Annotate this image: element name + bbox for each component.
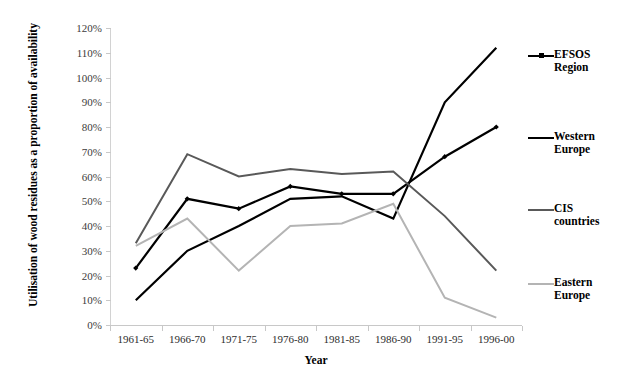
legend-diamond-marker-icon	[539, 53, 544, 58]
legend-entry-eastern-europe[interactable]: Eastern Europe	[528, 276, 640, 302]
legend-line	[528, 283, 554, 285]
series-line	[136, 154, 497, 270]
line-chart: Utilisation of wood residues as a propor…	[0, 0, 643, 382]
legend-entry-efsos-region[interactable]: EFSOS Region	[528, 48, 640, 74]
x-axis-title: Year	[110, 354, 522, 366]
series-cis-countries	[136, 154, 497, 270]
legend-line-swatch-icon	[528, 203, 554, 216]
legend-label: CIS countries	[554, 202, 599, 228]
legend-entry-western-europe[interactable]: Western Europe	[528, 130, 640, 156]
series-western-europe	[136, 48, 497, 300]
series-eastern-europe	[136, 204, 497, 318]
legend-label: EFSOS Region	[554, 48, 590, 74]
legend-line-swatch-icon	[528, 49, 554, 62]
legend-entry-cis-countries[interactable]: CIS countries	[528, 202, 640, 228]
legend-line	[528, 137, 554, 139]
series-line	[136, 48, 497, 300]
legend-line	[528, 209, 554, 211]
legend-line-swatch-icon	[528, 131, 554, 144]
legend-line-swatch-icon	[528, 277, 554, 290]
legend-label: Eastern Europe	[554, 276, 592, 302]
legend-label: Western Europe	[554, 130, 595, 156]
series-line	[136, 204, 497, 318]
chart-legend: EFSOS RegionWestern EuropeCIS countriesE…	[528, 24, 640, 304]
